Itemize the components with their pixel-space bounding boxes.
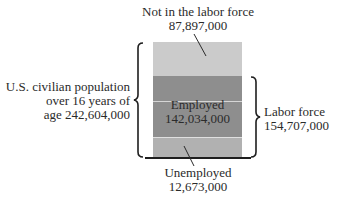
diagram-overlay — [0, 0, 342, 201]
not-in-labor-force-pointer — [194, 34, 206, 56]
right-bracket-icon — [251, 77, 260, 157]
unemployed-pointer — [184, 146, 194, 166]
left-bracket-icon — [134, 43, 143, 157]
